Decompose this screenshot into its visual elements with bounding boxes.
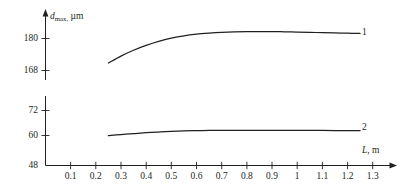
x-axis-title: L, m [362,146,379,156]
x-axis-comma: , [367,145,369,155]
curve-2-path [108,130,360,135]
y-axis-subscript: max, [55,15,68,22]
y-tick-label-180: 180 [2,34,38,44]
y-tick-label-168: 168 [2,66,38,76]
x-tick-label-12: 1.3 [357,172,389,182]
curve-label-1: 1 [362,28,367,38]
y-tick-label-72: 72 [2,106,38,116]
curve-1-path [108,32,360,63]
y-axis-upper [43,9,49,80]
y-tick-label-48: 48 [2,161,38,171]
curve-label-2: 2 [362,123,367,133]
plot-area [0,0,413,192]
x-axis-unit: m [372,145,379,155]
y-axis-title: dmax, µm [50,12,83,22]
y-tick-label-60: 60 [2,131,38,141]
y-axis-unit: µm [71,11,84,21]
chart-figure: dmax, µm L, m 180 168 72 60 48 0.1 0.2 0… [0,0,413,192]
